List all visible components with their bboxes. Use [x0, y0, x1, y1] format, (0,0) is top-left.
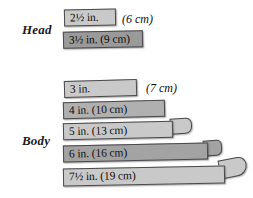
strip-body-4-label: 6 in. (16 cm)	[64, 147, 127, 160]
strip-body-3-label: 5 in. (13 cm)	[64, 125, 127, 138]
group-label-body: Body	[22, 133, 50, 149]
strip-head-2-and-half-inch: 2½ in.	[64, 9, 116, 27]
strip-head-3-and-half-inch: 3½ in. (9 cm)	[63, 30, 143, 49]
strip-head-2-label: 3½ in. (9 cm)	[64, 33, 130, 46]
strip-body-2-label: 4 in. (10 cm)	[64, 103, 127, 116]
strip-body-1-cm-label: (7 cm)	[146, 81, 177, 96]
strip-body-1-label: 3 in.	[65, 83, 90, 95]
strip-head-1-cm-label: (6 cm)	[122, 12, 153, 27]
strip-body-5-inch: 5 in. (13 cm)	[63, 121, 173, 140]
strip-body-7-and-half-inch: 7½ in. (19 cm)	[63, 166, 225, 187]
strip-body-4-inch: 4 in. (10 cm)	[63, 100, 165, 119]
measurement-strips-figure: Head 2½ in. (6 cm) 3½ in. (9 cm) Body 3 …	[0, 0, 253, 198]
group-label-head: Head	[22, 22, 52, 38]
strip-body-5-label: 7½ in. (19 cm)	[64, 170, 136, 183]
strip-head-1-label: 2½ in.	[65, 12, 99, 24]
strip-body-3-inch: 3 in.	[64, 79, 137, 98]
strip-body-6-inch: 6 in. (16 cm)	[63, 142, 208, 162]
